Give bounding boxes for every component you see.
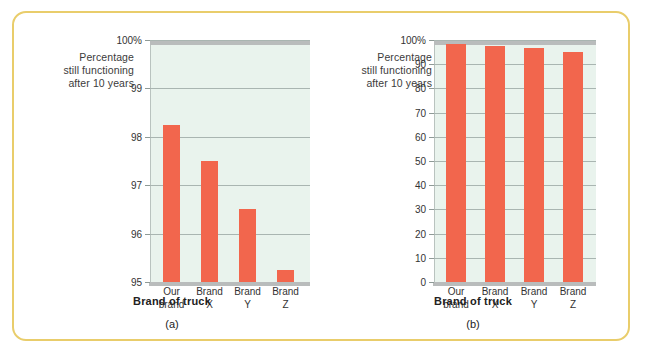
y-axis-tick [429,185,434,186]
y-axis-title-a-line1: Percentage [30,51,134,64]
y-axis-tick [429,88,434,89]
figure-frame: Percentage still functioning after 10 ye… [12,11,630,341]
y-axis-tick-label: 40 [415,180,426,191]
y-axis-tick-label: 95 [131,277,142,288]
y-axis-tick [145,185,150,186]
y-axis-tick [145,137,150,138]
chart-panel-a: Percentage still functioning after 10 ye… [22,13,322,343]
y-axis-tick [429,282,434,283]
y-axis-tick-label: 98 [131,131,142,142]
y-axis-tick-label: 20 [415,228,426,239]
gridline [150,40,310,41]
y-axis-tick-label: 99 [131,83,142,94]
y-axis-tick-label: 10 [415,252,426,263]
y-axis-tick [429,137,434,138]
bar [524,48,544,282]
y-axis-tick-label: 100% [400,35,426,46]
caption-b: (b) [322,318,624,330]
y-axis-title-a-line2: still functioning [30,64,134,77]
y-axis-tick-label: 80 [415,83,426,94]
bar [485,46,505,282]
y-axis-tick-label: 60 [415,131,426,142]
y-axis-tick [429,113,434,114]
plot-area-a: 9596979899100% OurbrandBrandXBrandYBrand… [150,40,310,282]
y-axis-tick-label: 0 [420,277,426,288]
y-axis-tick-label: 90 [415,59,426,70]
caption-a: (a) [22,318,322,330]
y-axis-tick [429,40,434,41]
plot-area-b: 0102030405060708090100% OurbrandBrandXBr… [434,40,596,282]
y-axis-tick [429,258,434,259]
bar [563,52,583,283]
y-axis-tick-label: 100% [116,35,142,46]
bar [446,44,466,282]
y-axis-tick [145,234,150,235]
bar [277,270,294,282]
bar [163,125,180,282]
y-axis-tick [429,209,434,210]
chart-panel-b: Percentage still functioning after 10 ye… [322,13,624,343]
gridline [434,40,596,41]
y-axis-tick [145,282,150,283]
y-axis-tick [429,64,434,65]
y-axis-tick [145,40,150,41]
y-axis-tick-label: 97 [131,180,142,191]
x-axis-title-a: Brand of truck [22,295,322,307]
y-axis-tick [429,234,434,235]
y-axis-title-a-line3: after 10 years [30,77,134,90]
y-axis-tick-label: 70 [415,107,426,118]
y-axis-title-a: Percentage still functioning after 10 ye… [30,51,134,90]
gridline [150,88,310,89]
y-axis-tick-label: 30 [415,204,426,215]
y-axis-tick-label: 50 [415,156,426,167]
x-axis-title-b: Brand of truck [322,295,624,307]
y-axis-tick [145,88,150,89]
y-axis-tick-label: 96 [131,228,142,239]
bar [201,161,218,282]
y-axis-tick [429,161,434,162]
bar [239,209,256,282]
